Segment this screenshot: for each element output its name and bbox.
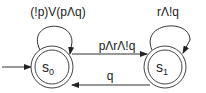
transition-s1-s0-label: q: [107, 69, 114, 83]
self-loop-s0-label: (!p)V(pΛq): [30, 5, 85, 19]
state-s0: s0: [31, 46, 73, 88]
state-s1: s1: [144, 46, 186, 88]
self-loop-s1-label: rΛ!q: [157, 5, 179, 19]
transition-s0-s1-label: pΛrΛ!q: [99, 39, 136, 53]
automaton-diagram: (!p)V(pΛq) pΛrΛ!q rΛ!q q s0 s1: [0, 0, 206, 93]
